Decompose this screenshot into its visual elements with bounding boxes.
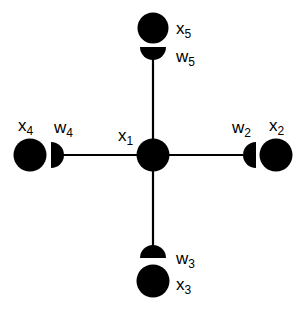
label-x2: x2: [269, 116, 285, 138]
label-x4: x4: [18, 116, 34, 138]
label-x3: x3: [176, 275, 192, 297]
label-w3: w3: [175, 249, 195, 271]
node-x2: [260, 139, 293, 172]
label-w4: w4: [53, 118, 73, 140]
weight-w5-half-disk: [140, 47, 166, 60]
weight-w2-half-disk: [243, 142, 256, 168]
node-x4: [14, 139, 47, 172]
label-x1: x1: [118, 126, 134, 148]
weight-w3-half-disk: [140, 245, 166, 258]
label-w5: w5: [175, 47, 195, 69]
label-w2: w2: [231, 118, 251, 140]
network-diagram: x1 x5 w5 w3 x3 x4 w4 w2 x2: [0, 0, 306, 316]
node-x1: [137, 139, 170, 172]
node-x5: [138, 13, 169, 44]
weight-w4-half-disk: [51, 142, 64, 168]
node-x3: [137, 265, 170, 298]
label-x5: x5: [176, 19, 192, 41]
